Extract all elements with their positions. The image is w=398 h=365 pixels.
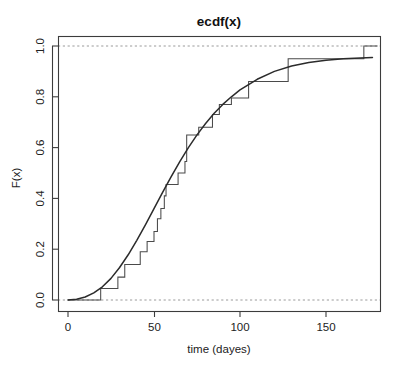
y-axis-title: F(x) bbox=[10, 168, 22, 189]
plot-frame bbox=[59, 37, 381, 312]
ecdf-chart-svg: ecdf(x) 0.0 0.2 0.4 0.6 0.8 1.0 bbox=[0, 0, 398, 365]
chart-figure: ecdf(x) 0.0 0.2 0.4 0.6 0.8 1.0 bbox=[0, 0, 398, 365]
x-axis-ticks bbox=[58, 311, 380, 317]
y-axis-ticks bbox=[52, 46, 58, 300]
x-axis-tick-labels: 0 50 100 150 bbox=[65, 321, 336, 333]
fitted-curve-series bbox=[68, 57, 372, 300]
y-ticklabel-2: 0.4 bbox=[34, 190, 46, 207]
y-ticklabel-5: 1.0 bbox=[34, 38, 46, 54]
ecdf-step-series bbox=[68, 46, 378, 300]
x-ticklabel-0: 0 bbox=[65, 321, 71, 333]
y-ticklabel-1: 0.2 bbox=[34, 241, 46, 257]
x-axis-title: time (dayes) bbox=[187, 343, 250, 355]
y-ticklabel-4: 0.8 bbox=[34, 89, 46, 105]
y-axis-tick-labels: 0.0 0.2 0.4 0.6 0.8 1.0 bbox=[34, 38, 46, 308]
y-ticklabel-0: 0.0 bbox=[34, 292, 46, 308]
chart-title: ecdf(x) bbox=[197, 14, 241, 29]
x-ticklabel-3: 150 bbox=[316, 321, 335, 333]
y-ticklabel-3: 0.6 bbox=[34, 140, 46, 156]
x-ticklabel-2: 100 bbox=[230, 321, 249, 333]
reference-lines-group bbox=[58, 46, 380, 300]
x-ticklabel-1: 50 bbox=[148, 321, 161, 333]
